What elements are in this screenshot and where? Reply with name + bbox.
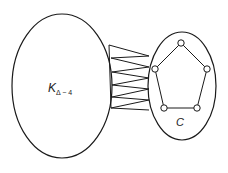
left-set-ellipse [12, 14, 112, 158]
connection-edges [109, 45, 149, 110]
vertex [161, 105, 167, 111]
right-set-label: C [176, 116, 184, 128]
vertex [194, 105, 200, 111]
diagram-canvas: KΔ − 4 C [0, 0, 228, 173]
pentagon-cycle [155, 43, 207, 108]
left-set-label: KΔ − 4 [48, 81, 72, 96]
cycle-vertices [152, 40, 210, 111]
vertex [204, 66, 210, 72]
vertex [152, 66, 158, 72]
vertex [178, 40, 184, 46]
